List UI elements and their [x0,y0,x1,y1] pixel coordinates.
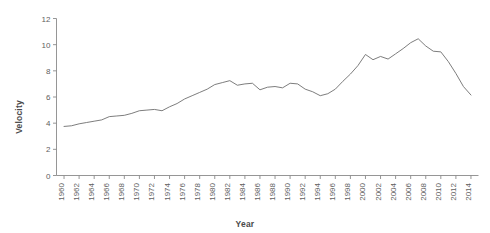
svg-text:1986: 1986 [253,182,262,200]
svg-text:1994: 1994 [313,182,322,200]
svg-text:2014: 2014 [464,182,473,200]
svg-text:2004: 2004 [389,182,398,200]
svg-text:1978: 1978 [193,182,202,200]
data-series [64,39,471,127]
svg-text:8: 8 [46,67,51,76]
svg-text:2000: 2000 [358,182,367,200]
svg-text:1984: 1984 [238,182,247,200]
svg-text:2010: 2010 [434,182,443,200]
svg-text:2012: 2012 [449,182,458,200]
svg-text:1988: 1988 [268,182,277,200]
svg-text:4: 4 [46,119,51,128]
svg-text:2002: 2002 [374,182,383,200]
svg-text:1968: 1968 [117,182,126,200]
svg-text:1982: 1982 [223,182,232,200]
svg-text:1962: 1962 [72,182,81,200]
y-axis: 024681012 [42,15,57,181]
svg-text:1980: 1980 [208,182,217,200]
svg-text:1990: 1990 [283,182,292,200]
svg-text:1970: 1970 [132,182,141,200]
svg-text:10: 10 [42,41,51,50]
x-axis: 1960196219641966196819701972197419761978… [57,176,479,201]
svg-text:6: 6 [46,93,51,102]
plot-area: 024681012 196019621964196619681970197219… [0,0,490,233]
svg-text:2006: 2006 [404,182,413,200]
svg-text:2: 2 [46,145,51,154]
line-chart: Velocity Year 024681012 1960196219641966… [0,0,490,233]
svg-text:1972: 1972 [147,182,156,200]
svg-text:1960: 1960 [57,182,66,200]
svg-text:1996: 1996 [328,182,337,200]
svg-text:1974: 1974 [163,182,172,200]
svg-text:1998: 1998 [343,182,352,200]
svg-text:2008: 2008 [419,182,428,200]
svg-text:0: 0 [46,172,51,181]
svg-text:1976: 1976 [178,182,187,200]
svg-text:1966: 1966 [102,182,111,200]
svg-text:12: 12 [42,15,51,24]
svg-text:1992: 1992 [298,182,307,200]
svg-text:1964: 1964 [87,182,96,200]
